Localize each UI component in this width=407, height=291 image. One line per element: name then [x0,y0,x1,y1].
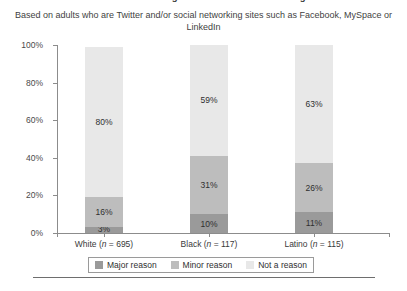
legend-item[interactable]: Minor reason [171,260,233,270]
x-axis-tick [104,233,105,237]
plot-area: 0%20%40%60%80%100%3%16%80%White (n = 695… [57,45,390,233]
legend-label: Not a reason [258,260,307,270]
y-axis-tick [53,83,57,84]
x-axis-tick [314,233,315,237]
x-axis-category-label: Latino (n = 115) [284,239,343,249]
y-axis-tick [53,45,57,46]
bar-latino[interactable]: 11%26%63% [295,45,333,233]
bar-segment[interactable]: 80% [85,47,123,197]
x-axis-tick [389,233,390,237]
bar-segment[interactable]: 26% [295,163,333,212]
bar-segment[interactable]: 10% [190,214,228,233]
y-axis-label: 80% [26,78,43,88]
legend-label: Major reason [107,260,157,270]
chart-figure: Reasons for not using Twitter or social … [0,0,407,291]
bar-segment-label: 31% [200,180,217,190]
x-axis-category-label: Black (n = 117) [181,239,238,249]
y-axis-label: 0% [31,228,43,238]
bar-segment[interactable]: 59% [190,45,228,156]
bar-segment-label: 26% [305,183,322,193]
bar-black[interactable]: 10%31%59% [190,45,228,233]
bar-segment-label: 10% [200,219,217,229]
footer-divider [33,277,375,278]
bar-segment-label: 11% [306,218,322,228]
legend-swatch-minor [171,261,179,269]
chart-title: Reasons for not using Twitter or social … [0,0,407,2]
x-axis-tick [209,233,210,237]
y-axis-tick [53,120,57,121]
x-axis-tick [57,233,58,237]
bar-segment[interactable]: 31% [190,156,228,214]
y-axis-line [57,45,58,233]
bar-segment[interactable]: 63% [295,45,333,163]
bar-segment[interactable]: 11% [295,212,333,233]
bar-segment-label: 80% [95,117,112,127]
y-axis-label: 40% [26,153,43,163]
bar-segment[interactable]: 16% [85,197,123,227]
y-axis-label: 60% [26,115,43,125]
chart-subtitle: Based on adults who are Twitter and/or s… [8,10,399,33]
y-axis-label: 20% [26,190,43,200]
y-axis-tick [53,195,57,196]
y-axis-label: 100% [21,40,43,50]
chart-legend: Major reasonMinor reasonNot a reason [88,257,314,273]
bar-segment-label: 16% [95,207,112,217]
bar-white[interactable]: 3%16%80% [85,45,123,233]
legend-item[interactable]: Major reason [95,260,157,270]
legend-swatch-major [95,261,103,269]
legend-item[interactable]: Not a reason [246,260,307,270]
bar-segment-label: 59% [200,95,217,105]
legend-label: Minor reason [183,260,233,270]
y-axis-tick [53,158,57,159]
bar-segment-label: 63% [305,99,322,109]
x-axis-category-label: White (n = 695) [75,239,133,249]
legend-swatch-not [246,261,254,269]
